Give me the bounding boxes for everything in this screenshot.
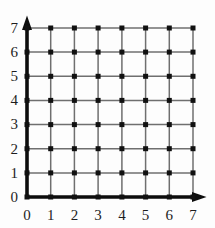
- x-tick-label-4: 4: [114, 208, 130, 223]
- lattice-node: [119, 74, 124, 79]
- lattice-node: [167, 26, 172, 31]
- x-tick-label-5: 5: [138, 208, 154, 223]
- lattice-node: [72, 170, 77, 175]
- lattice-node: [72, 26, 77, 31]
- x-tick-label-1: 1: [43, 208, 59, 223]
- lattice-node: [72, 74, 77, 79]
- lattice-node: [25, 26, 30, 31]
- lattice-node: [96, 74, 101, 79]
- lattice-node: [191, 98, 196, 103]
- lattice-node: [72, 195, 77, 200]
- lattice-node: [191, 195, 196, 200]
- x-tick-label-6: 6: [161, 208, 177, 223]
- lattice-node: [72, 122, 77, 127]
- lattice-node: [119, 98, 124, 103]
- lattice-node: [48, 195, 53, 200]
- lattice-node: [191, 50, 196, 55]
- y-tick-label-4: 4: [2, 93, 18, 108]
- lattice-node: [96, 98, 101, 103]
- lattice-node: [143, 122, 148, 127]
- lattice-node: [167, 74, 172, 79]
- lattice-node: [143, 170, 148, 175]
- lattice-node: [96, 26, 101, 31]
- lattice-node: [119, 195, 124, 200]
- lattice-node: [119, 170, 124, 175]
- lattice-node: [143, 146, 148, 151]
- lattice-node: [96, 195, 101, 200]
- x-tick-label-3: 3: [90, 208, 106, 223]
- lattice-node: [167, 98, 172, 103]
- lattice-node: [25, 50, 30, 55]
- lattice-node: [25, 195, 30, 200]
- lattice-node: [143, 50, 148, 55]
- lattice-node: [143, 74, 148, 79]
- lattice-node: [96, 122, 101, 127]
- lattice-node: [72, 146, 77, 151]
- y-tick-label-2: 2: [2, 142, 18, 157]
- x-tick-label-7: 7: [185, 208, 201, 223]
- lattice-node: [167, 146, 172, 151]
- lattice-node: [191, 26, 196, 31]
- y-tick-label-3: 3: [2, 117, 18, 132]
- lattice-node: [167, 122, 172, 127]
- lattice-node: [48, 74, 53, 79]
- x-tick-label-2: 2: [66, 208, 82, 223]
- lattice-node: [96, 50, 101, 55]
- lattice-node: [48, 50, 53, 55]
- y-tick-label-5: 5: [2, 69, 18, 84]
- lattice-node: [48, 146, 53, 151]
- lattice-node: [119, 26, 124, 31]
- lattice-node: [96, 146, 101, 151]
- lattice-node: [72, 50, 77, 55]
- lattice-node: [25, 146, 30, 151]
- lattice-node: [143, 195, 148, 200]
- lattice-node: [119, 50, 124, 55]
- lattice-node: [143, 98, 148, 103]
- lattice-node: [25, 98, 30, 103]
- lattice-grid-figure: 7 6 5 4 3 2 1 0 0 1 2 3 4 5 6 7: [0, 0, 215, 228]
- y-tick-label-1: 1: [2, 166, 18, 181]
- lattice-node: [25, 122, 30, 127]
- lattice-node: [48, 170, 53, 175]
- lattice-node: [143, 26, 148, 31]
- y-tick-label-7: 7: [2, 21, 18, 36]
- lattice-node: [119, 146, 124, 151]
- y-tick-label-6: 6: [2, 45, 18, 60]
- lattice-node: [191, 170, 196, 175]
- lattice-plot-canvas: [0, 0, 215, 228]
- lattice-node: [167, 50, 172, 55]
- lattice-node: [72, 98, 77, 103]
- lattice-node: [167, 195, 172, 200]
- lattice-node: [96, 170, 101, 175]
- lattice-node: [191, 74, 196, 79]
- lattice-node: [167, 170, 172, 175]
- lattice-node: [25, 170, 30, 175]
- lattice-node: [191, 146, 196, 151]
- lattice-node: [48, 122, 53, 127]
- y-tick-label-0: 0: [2, 190, 18, 205]
- lattice-node: [119, 122, 124, 127]
- x-tick-label-0: 0: [19, 208, 35, 223]
- lattice-node: [48, 98, 53, 103]
- lattice-node: [191, 122, 196, 127]
- lattice-node: [48, 26, 53, 31]
- lattice-node: [25, 74, 30, 79]
